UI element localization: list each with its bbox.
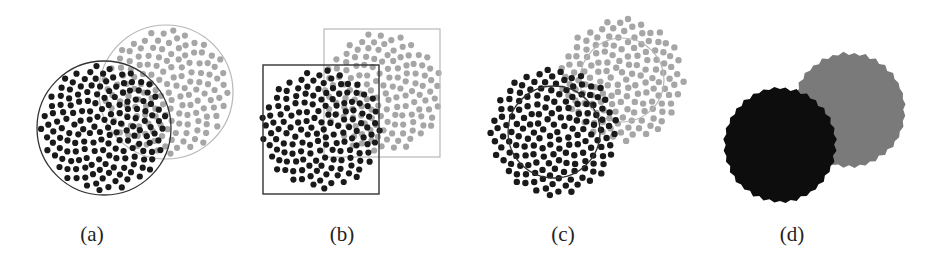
black-dot <box>134 106 140 112</box>
black-dot <box>354 82 360 88</box>
black-dot <box>162 113 168 119</box>
black-dot <box>59 85 65 91</box>
gray-dot <box>333 56 339 62</box>
black-dot <box>73 166 79 172</box>
black-dot <box>576 111 582 117</box>
black-dot <box>121 148 127 154</box>
gray-dot <box>621 28 627 34</box>
black-dot <box>344 89 350 95</box>
black-dot <box>541 153 547 159</box>
gray-dot <box>365 31 371 37</box>
black-dot <box>556 136 562 142</box>
gray-dot <box>416 106 422 112</box>
black-dot <box>587 178 593 184</box>
gray-dot <box>216 95 222 101</box>
black-dot <box>136 141 142 147</box>
gray-dot <box>363 54 369 60</box>
black-dot <box>308 173 314 179</box>
black-dot <box>580 150 586 156</box>
gray-dot <box>204 121 210 127</box>
black-dot <box>498 144 504 150</box>
black-dot <box>556 106 562 112</box>
black-dot <box>607 142 613 148</box>
gray-dot <box>145 61 151 67</box>
black-dot <box>94 91 100 97</box>
gray-dot <box>638 72 644 78</box>
black-dot <box>129 79 135 85</box>
gray-dot <box>395 138 401 144</box>
black-dot <box>106 102 112 108</box>
black-dot <box>267 142 273 148</box>
black-dot <box>278 111 284 117</box>
black-dot <box>310 101 316 107</box>
gray-dot <box>659 100 665 106</box>
black-dot <box>87 117 93 123</box>
black-dot <box>569 75 575 81</box>
black-dot <box>155 137 161 143</box>
black-dot <box>574 117 580 123</box>
gray-dot <box>408 42 414 48</box>
gray-dot <box>221 103 227 109</box>
gray-dot <box>209 53 215 59</box>
black-dot <box>551 99 557 105</box>
black-dot <box>93 76 99 82</box>
black-dot <box>76 99 82 105</box>
black-dot <box>304 109 310 115</box>
black-dot <box>587 92 593 98</box>
gray-dot <box>196 79 202 85</box>
black-dot <box>124 176 130 182</box>
black-dot <box>318 119 324 125</box>
gray-dot <box>660 49 666 55</box>
black-dot <box>364 124 370 130</box>
black-dot <box>289 151 295 157</box>
black-dot <box>156 107 162 113</box>
gray-dot <box>640 100 646 106</box>
gray-dot <box>411 61 417 67</box>
gray-dot <box>395 74 401 80</box>
black-dot <box>367 159 373 165</box>
gray-dot <box>668 100 674 106</box>
black-dot <box>98 136 104 142</box>
gray-dot <box>655 39 661 45</box>
black-dot <box>70 110 76 116</box>
gray-dot <box>211 104 217 110</box>
black-dot <box>520 125 526 131</box>
gray-dot <box>625 85 631 91</box>
black-dot <box>317 177 323 183</box>
gray-dot <box>194 127 200 133</box>
gray-dot <box>634 62 640 68</box>
black-dot <box>106 88 112 94</box>
gray-dot <box>668 109 674 115</box>
gray-dot <box>680 79 686 85</box>
gray-dot <box>193 110 199 116</box>
black-dot <box>611 131 617 137</box>
gray-dot <box>422 97 428 103</box>
black-dot <box>336 91 342 97</box>
black-dot <box>333 112 339 118</box>
black-dot <box>303 91 309 97</box>
black-dot <box>273 136 279 142</box>
black-dot <box>284 105 290 111</box>
gray-dot <box>656 79 662 85</box>
black-dot <box>58 102 64 108</box>
black-dot <box>93 63 99 69</box>
black-dot <box>66 95 72 101</box>
gray-dot <box>646 38 652 44</box>
black-dot <box>361 91 367 97</box>
gray-dot <box>164 58 170 64</box>
black-dot <box>105 125 111 131</box>
black-dot <box>366 114 372 120</box>
black-dot <box>127 87 133 93</box>
black-dot <box>299 176 305 182</box>
black-dot <box>120 90 126 96</box>
gray-dot <box>574 44 580 50</box>
gray-dot <box>663 40 669 46</box>
gray-dot <box>127 58 133 64</box>
gray-dot <box>624 106 630 112</box>
gray-dot <box>155 38 161 44</box>
black-dot <box>334 103 340 109</box>
black-dot <box>563 98 569 104</box>
gray-dot <box>186 60 192 66</box>
gray-dot <box>180 138 186 144</box>
black-dot <box>583 118 589 124</box>
